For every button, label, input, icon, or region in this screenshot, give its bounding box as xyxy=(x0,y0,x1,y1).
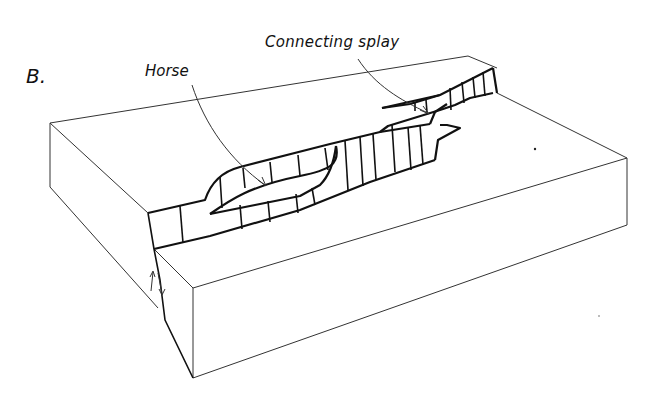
panel-label: B. xyxy=(26,64,46,88)
fault-front-edge xyxy=(148,213,193,378)
speck-mark xyxy=(534,148,536,150)
fault-scarp xyxy=(148,68,497,249)
scarp-hatching xyxy=(180,72,485,243)
horse-label: Horse xyxy=(145,62,189,80)
speck-mark xyxy=(598,315,600,317)
block-diagram: B. Horse Connecting splay xyxy=(0,0,655,397)
fault-block-drawing xyxy=(0,0,655,397)
front-block-outline xyxy=(154,93,627,378)
slip-sense-arrows xyxy=(150,271,165,295)
connecting-splay-label: Connecting splay xyxy=(265,33,399,51)
